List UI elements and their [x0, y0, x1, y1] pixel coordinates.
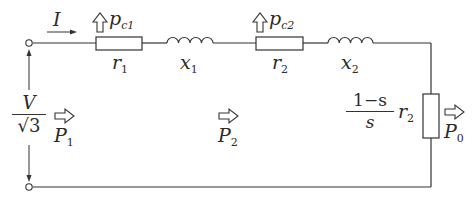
- current-label: I: [53, 10, 61, 29]
- label-x1: x1: [180, 53, 198, 75]
- loss-arrow-up-icon-pc1: [93, 13, 107, 32]
- current-arrow-icon: [47, 30, 77, 35]
- symbol: P: [54, 124, 67, 146]
- subscript: 1: [67, 136, 74, 149]
- loss-label-pc2: pc2: [269, 9, 294, 31]
- inductor-x1: [167, 38, 213, 44]
- current-symbol: I: [53, 8, 61, 30]
- load-factor-label: r2: [398, 102, 414, 124]
- subscript: 2: [352, 63, 359, 76]
- subscript: 2: [281, 63, 288, 76]
- load-resistance-label: 1−s s: [346, 92, 394, 131]
- symbol: P: [444, 120, 457, 142]
- power-arrow-right-icon-p1: [55, 109, 74, 123]
- power-label-p2: P2: [218, 126, 238, 148]
- loss-symbol: p: [109, 7, 121, 29]
- label-r1: r1: [112, 53, 128, 75]
- inductor-x2: [328, 37, 373, 43]
- subscript: 2: [231, 136, 238, 149]
- terminal-top: [26, 40, 32, 46]
- resistor-r1: [96, 37, 142, 50]
- voltage-numerator: V: [12, 94, 46, 112]
- load-numerator: 1−s: [346, 92, 394, 109]
- subscript: 1: [121, 63, 128, 76]
- subscript: 2: [407, 112, 414, 125]
- symbol: x: [180, 51, 191, 73]
- subscript: 0: [457, 132, 464, 145]
- subscript: 1: [191, 63, 198, 76]
- loss-subscript: c2: [281, 19, 294, 32]
- power-label-p1: P1: [54, 126, 74, 148]
- symbol: x: [341, 51, 352, 73]
- symbol: r: [112, 51, 121, 73]
- loss-symbol: p: [269, 7, 281, 29]
- symbol: r: [272, 51, 281, 73]
- power-arrow-right-icon-p0: [445, 105, 464, 119]
- label-r2: r2: [272, 53, 288, 75]
- power-label-p0: P0: [444, 122, 464, 144]
- voltage-label: V √3: [12, 94, 46, 135]
- power-arrow-right-icon-p2: [219, 109, 238, 123]
- terminal-bottom: [26, 184, 32, 190]
- resistor-r2: [256, 37, 303, 50]
- symbol: r: [398, 100, 407, 122]
- loss-arrow-up-icon-pc2: [253, 13, 267, 32]
- loss-subscript: c1: [121, 19, 134, 32]
- symbol: P: [218, 124, 231, 146]
- load-denominator: s: [346, 114, 394, 131]
- voltage-denominator: √3: [12, 117, 46, 135]
- resistor-load: [423, 94, 439, 138]
- label-x2: x2: [341, 53, 359, 75]
- loss-label-pc1: pc1: [109, 9, 134, 31]
